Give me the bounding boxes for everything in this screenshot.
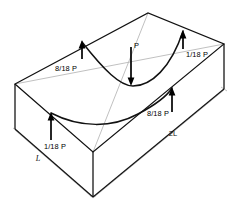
box-top-face-outline: [15, 13, 224, 152]
force-top-right-head: [180, 30, 187, 39]
force-mid-right-label: 8/18 P: [147, 109, 169, 118]
top-face-construction-lines: [15, 13, 224, 152]
edge-bottom-left-front: [15, 130, 93, 198]
front-face-bottom-left: [15, 129, 93, 197]
force-arrow-mid-right: 8/18 P: [147, 87, 175, 118]
dimension-label-short-side: L: [35, 154, 41, 163]
diagram-canvas: 8/18 P P 1/18 P 8/18 P 1/18 P L: [0, 0, 239, 209]
dimension-label-long-side: 2L: [169, 129, 177, 138]
top-face-quad: [15, 13, 224, 152]
force-top-left-label: 8/18 P: [55, 64, 77, 73]
force-center-label: P: [134, 41, 139, 50]
force-arrow-top-left: 8/18 P: [55, 40, 85, 73]
force-arrow-center: P: [128, 41, 139, 86]
plate-load-diagram: 8/18 P P 1/18 P 8/18 P 1/18 P L: [0, 0, 239, 209]
force-arrow-top-right: 1/18 P: [180, 30, 208, 59]
force-top-right-label: 1/18 P: [186, 50, 208, 59]
front-face-bottom-right: [93, 89, 224, 197]
force-bottom-left-label: 1/18 P: [44, 142, 66, 151]
edge-bottom-front-right: [93, 90, 224, 198]
